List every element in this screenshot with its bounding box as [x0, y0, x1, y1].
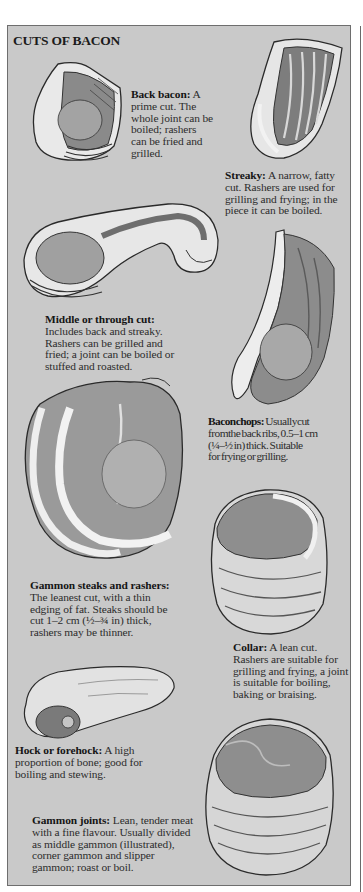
back-bacon-illustration: [28, 58, 124, 166]
bacon-chops-caption: Baconchops: Usuallycut fromthe back ribs…: [208, 416, 318, 463]
cut-name: Back bacon:: [131, 88, 190, 100]
cut-name: Hock or forehock:: [15, 744, 102, 756]
page-title: CUTS OF BACON: [13, 33, 120, 49]
hock-illustration: [18, 664, 178, 742]
gammon-steaks-caption: Gammon steaks and rashers: The leanest c…: [30, 580, 169, 639]
page-edge-rule: [360, 26, 361, 892]
cut-name: Gammon joints:: [32, 814, 110, 826]
middle-cut-caption: Middle or through cut: Includes back and…: [45, 314, 174, 373]
cut-name: Streaky:: [225, 169, 266, 181]
cut-name: Gammon steaks and rashers:: [30, 579, 169, 591]
cut-name: Collar:: [233, 641, 267, 653]
bacon-chops-illustration: [228, 228, 338, 408]
cut-name: Baconchops:: [208, 415, 264, 427]
middle-cut-illustration: [18, 200, 222, 304]
gammon-joint-illustration: [200, 715, 336, 879]
collar-illustration: [205, 484, 333, 636]
hock-caption: Hock or forehock: A high proportion of b…: [15, 745, 143, 780]
back-bacon-caption: Back bacon: A prime cut. The whole joint…: [131, 89, 213, 160]
collar-caption: Collar: A lean cut. Rashers are suitable…: [233, 642, 348, 701]
cut-name: Middle or through cut:: [45, 313, 155, 325]
streaky-caption: Streaky: A narrow, fatty cut. Rashers ar…: [225, 170, 337, 217]
gammon-joints-caption: Gammon joints: Lean, tender meat with a …: [32, 815, 193, 874]
streaky-illustration: [244, 34, 344, 162]
gammon-steaks-illustration: [20, 374, 186, 560]
